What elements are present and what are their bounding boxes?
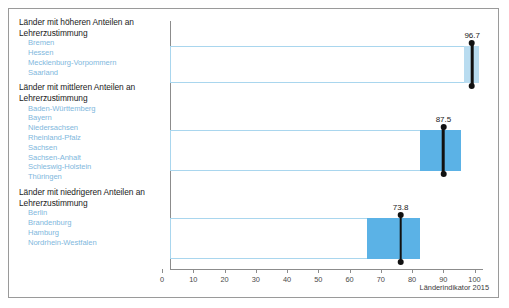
- x-tick-mark: [256, 269, 257, 273]
- bar-outline: [170, 46, 479, 83]
- marker-dot-top: [398, 212, 404, 218]
- value-marker: [399, 215, 402, 262]
- x-tick-label: 40: [283, 275, 291, 284]
- bar-outline: [170, 130, 461, 171]
- x-tick-mark: [350, 269, 351, 273]
- x-tick-mark: [193, 269, 194, 273]
- legend-state: Thüringen: [28, 172, 159, 182]
- legend-group-title: Länder mit höheren Anteilen an Lehrerzus…: [19, 17, 159, 38]
- bar-value-label: 87.5: [436, 115, 452, 124]
- x-tick-mark: [381, 269, 382, 273]
- bar-range-segment: [367, 218, 420, 259]
- legend-group-high: Länder mit höheren Anteilen an Lehrerzus…: [19, 17, 159, 77]
- legend-column: Länder mit höheren Anteilen an Lehrerzus…: [19, 17, 159, 252]
- x-tick-mark: [287, 269, 288, 273]
- marker-dot-top: [440, 124, 446, 130]
- bar-range-segment: [420, 130, 461, 171]
- legend-state: Brandenburg: [28, 218, 159, 228]
- legend-group-title: Länder mit niedrigeren Anteilen an Lehre…: [19, 187, 159, 208]
- marker-dot-top: [469, 40, 475, 46]
- legend-state: Bremen: [28, 38, 159, 48]
- plot-area: 0102030405060708090100 96.787.573.8: [162, 17, 492, 289]
- legend-group-title: Länder mit mittleren Anteilen an Lehrerz…: [19, 82, 159, 103]
- bar-row[interactable]: [170, 218, 420, 259]
- bar-value-label: 73.8: [393, 203, 409, 212]
- x-tick-mark: [443, 269, 444, 273]
- bar-row[interactable]: [170, 130, 461, 171]
- marker-dot-bottom: [469, 83, 475, 89]
- legend-state: Baden-Württemberg: [28, 104, 159, 114]
- x-tick-mark: [162, 269, 163, 273]
- x-tick-label: 80: [408, 275, 416, 284]
- legend-state: Saarland: [28, 68, 159, 78]
- legend-state: Hamburg: [28, 228, 159, 238]
- x-tick-label: 60: [345, 275, 353, 284]
- legend-state: Bayern: [28, 113, 159, 123]
- source-note: Länderindikator 2015: [420, 283, 489, 292]
- legend-state: Rheinland-Pfalz: [28, 133, 159, 143]
- marker-dot-bottom: [440, 171, 446, 177]
- x-axis-line: [170, 269, 483, 270]
- x-tick-label: 0: [160, 275, 164, 284]
- legend-group-medium: Länder mit mittleren Anteilen an Lehrerz…: [19, 82, 159, 182]
- chart-frame: Länder mit höheren Anteilen an Lehrerzus…: [8, 8, 499, 298]
- x-tick-mark: [225, 269, 226, 273]
- value-marker: [471, 43, 474, 86]
- x-tick-label: 50: [314, 275, 322, 284]
- x-tick-mark: [412, 269, 413, 273]
- legend-group-low: Länder mit niedrigeren Anteilen an Lehre…: [19, 187, 159, 247]
- legend-state: Mecklenburg-Vorpommern: [28, 58, 159, 68]
- legend-state: Sachsen-Anhalt: [28, 153, 159, 163]
- value-marker: [442, 127, 445, 174]
- bar-value-label: 96.7: [464, 31, 480, 40]
- x-tick-label: 20: [220, 275, 228, 284]
- x-tick-mark: [318, 269, 319, 273]
- legend-state: Hessen: [28, 48, 159, 58]
- legend-state: Sachsen: [28, 143, 159, 153]
- legend-state: Berlin: [28, 208, 159, 218]
- x-tick-label: 30: [252, 275, 260, 284]
- legend-state: Schleswig-Holstein: [28, 162, 159, 172]
- x-tick-mark: [475, 269, 476, 273]
- legend-state: Niedersachsen: [28, 123, 159, 133]
- legend-state: Nordrhein-Westfalen: [28, 238, 159, 248]
- x-tick-label: 10: [189, 275, 197, 284]
- marker-dot-bottom: [398, 259, 404, 265]
- x-tick-label: 70: [377, 275, 385, 284]
- bar-row[interactable]: [170, 46, 479, 83]
